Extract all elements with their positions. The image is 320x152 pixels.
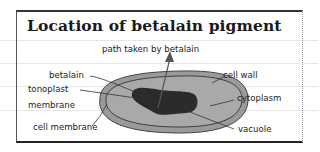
label-vacuole: vacuole bbox=[238, 124, 271, 134]
label-cell-wall: cell wall bbox=[223, 70, 258, 80]
label-tonoplast: tonoplast bbox=[28, 84, 68, 94]
label-path-taken: path taken by betalain bbox=[102, 44, 199, 54]
label-cytoplasm: cytoplasm bbox=[237, 93, 281, 103]
label-betalain: betalain bbox=[49, 70, 84, 80]
label-tonoplast-membrane: membrane bbox=[28, 100, 75, 110]
label-cell-membrane: cell membrane bbox=[33, 122, 98, 132]
